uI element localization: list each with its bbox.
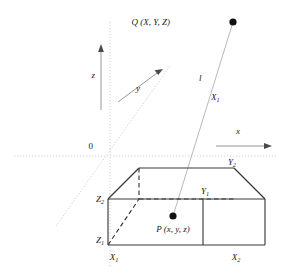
corner-z1-sub: 1 [101,239,104,246]
origin-label: 0 [89,141,94,151]
point-p-label: P (x, y, z) [155,224,190,234]
y-axis-dotted-line [56,66,170,226]
x-axis-label: x [235,126,240,136]
y-axis-label: y [135,83,140,93]
ray-l-label: l [199,73,202,83]
corner-z2-sub: 2 [101,198,104,205]
corner-z1-label: Z1 [96,235,104,246]
corner-y1-sub: 1 [206,190,209,197]
y-axis-arrow [118,69,163,102]
point-q-label: Q (X, Y, Z) [132,17,170,27]
corner-x1-sub: 1 [115,256,118,263]
box-top-left-edge [108,168,139,199]
x-axis-arrow [216,143,272,149]
axis-lines-group [14,22,276,268]
corner-z2-label: Z2 [96,194,104,205]
z-axis-label: z [90,70,95,80]
ray-x1-label: X1 [210,92,220,103]
diagram-root: Q (X, Y, Z) P (x, y, z) l 0 z y x X1 Y2 … [0,0,282,278]
corner-x2-sub: 2 [237,256,240,263]
box-hidden-diagonal-edge [108,199,139,245]
corner-x2-label: X2 [231,252,241,263]
point-p-dot [169,212,176,219]
ray-x1-sub: 1 [217,96,220,103]
z-axis-arrow-head [98,44,104,52]
z-axis-arrow [98,44,104,110]
corner-y1-label: Y1 [201,186,209,197]
x-axis-arrow-head [264,143,272,149]
corner-x1-label: X1 [109,252,119,263]
corner-y2-label: Y2 [228,157,236,168]
point-q-dot [229,18,236,25]
corner-y2-sub: 2 [233,161,236,168]
box-top-right-edge [234,168,265,199]
coordinate-box-diagram: Q (X, Y, Z) P (x, y, z) l 0 z y x X1 Y2 … [0,0,282,278]
